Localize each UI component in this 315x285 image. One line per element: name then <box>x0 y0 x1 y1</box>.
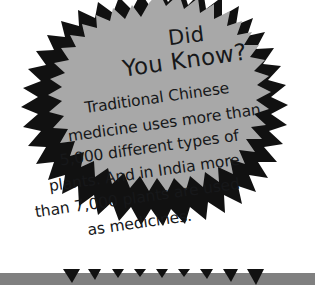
starburst-shape <box>0 0 315 285</box>
starburst-svg <box>0 0 315 285</box>
did-you-know-callout-graphic: Did You Know? Traditional Chinese medici… <box>0 0 315 285</box>
bottom-gray-bar <box>0 273 315 285</box>
starburst-path-group <box>21 0 288 226</box>
